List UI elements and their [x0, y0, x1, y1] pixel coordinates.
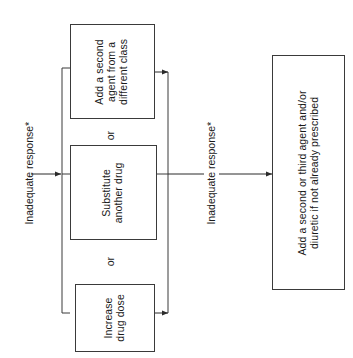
edge-label-inadequate-response-2: Inadequate response*: [193, 114, 229, 244]
node-substitute-drug[interactable]: Substitute another drug: [70, 145, 157, 240]
connector-label-or-2: or: [92, 262, 128, 278]
connector-label-or-2-text: or: [104, 257, 116, 266]
node-add-second-agent[interactable]: Add a second agent from a different clas…: [70, 24, 155, 119]
node-add-second-or-third-label: Add a second or third agent and/or diure…: [297, 90, 321, 255]
edge-label-inadequate-response-2-text: Inadequate response*: [205, 122, 217, 225]
edge-label-inadequate-response-1-text: Inadequate response*: [23, 122, 35, 225]
edge-label-inadequate-response-1: Inadequate response*: [11, 114, 47, 244]
edge-distribution-bus: [62, 68, 70, 313]
connector-label-or-1-text: or: [104, 131, 116, 140]
flowchart-canvas: Add a second agent from a different clas…: [0, 0, 353, 358]
node-increase-dose[interactable]: Increase drug dose: [75, 284, 155, 352]
node-substitute-drug-label: Substitute another drug: [102, 162, 126, 223]
node-add-second-or-third[interactable]: Add a second or third agent and/or diure…: [272, 55, 345, 290]
node-add-second-agent-label: Add a second agent from a different clas…: [95, 38, 131, 104]
node-increase-dose-label: Increase drug dose: [103, 294, 127, 342]
